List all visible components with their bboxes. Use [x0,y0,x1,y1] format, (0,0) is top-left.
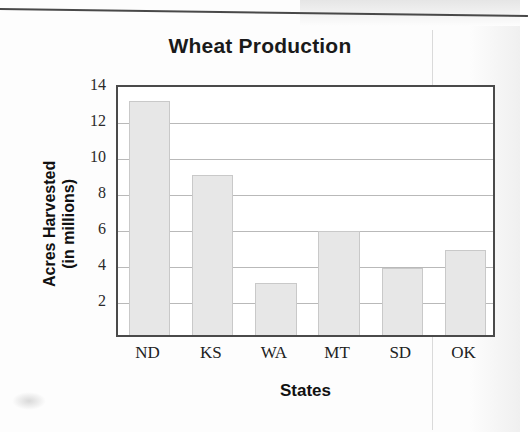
y-tick-label-2: 2 [72,292,106,310]
x-tick-label-mt: MT [324,343,350,363]
y-tick-label-12: 12 [72,112,106,130]
x-tick-label-nd: ND [135,343,160,363]
x-tick-label-ks: KS [200,343,222,363]
x-axis-tick-labels: NDKSWAMTSDOK [116,343,495,369]
y-tick-label-14: 14 [72,76,106,94]
bar-series [118,87,493,335]
y-tick-label-8: 8 [72,184,106,202]
bar-mt [318,231,359,335]
bar-nd [129,101,170,335]
y-tick-label-10: 10 [72,148,106,166]
x-tick-label-sd: SD [389,343,411,363]
y-tick-label-6: 6 [72,220,106,238]
bar-ok [445,250,486,335]
x-tick-label-ok: OK [451,343,476,363]
y-tick-label-4: 4 [72,256,106,274]
x-axis-title: States [116,381,495,401]
bar-ks [192,175,233,335]
bar-wa [255,283,296,335]
plot-area [116,85,495,337]
bar-sd [382,268,423,336]
x-tick-label-wa: WA [261,343,287,363]
